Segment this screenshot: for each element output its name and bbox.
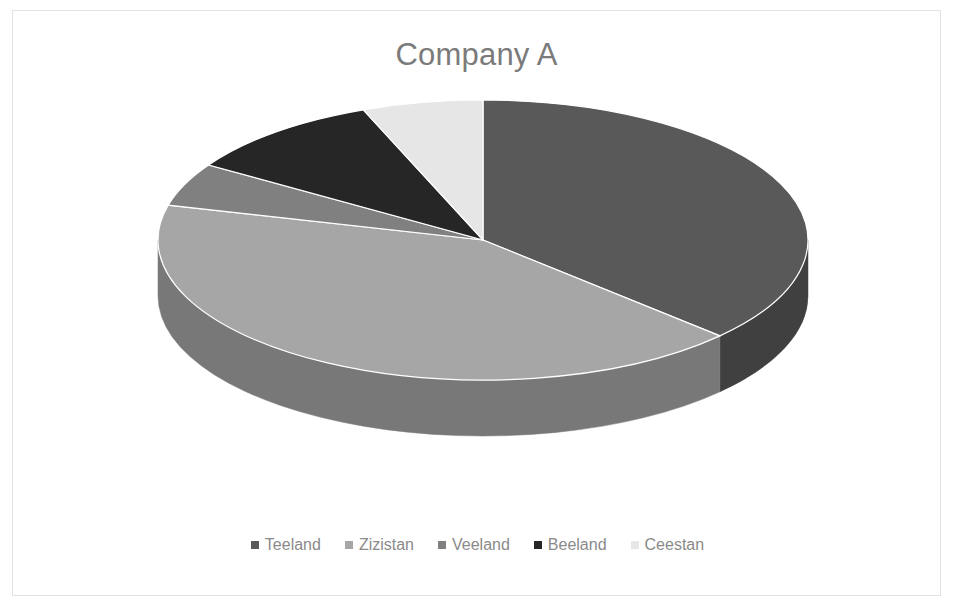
legend-item[interactable]: Teeland bbox=[251, 536, 321, 554]
legend-square-marker bbox=[345, 541, 353, 549]
legend-item-label: Zizistan bbox=[359, 536, 414, 554]
legend-item-label: Veeland bbox=[452, 536, 510, 554]
legend-item[interactable]: Veeland bbox=[438, 536, 510, 554]
legend-item-label: Ceestan bbox=[645, 536, 705, 554]
legend-item[interactable]: Beeland bbox=[534, 536, 607, 554]
legend-square-marker bbox=[534, 541, 542, 549]
legend-item[interactable]: Ceestan bbox=[631, 536, 705, 554]
legend-square-marker bbox=[251, 541, 259, 549]
legend-square-marker bbox=[631, 541, 639, 549]
chart-legend: TeelandZizistanVeelandBeelandCeestan bbox=[0, 536, 955, 554]
pie-chart-graphic bbox=[0, 0, 955, 610]
legend-item-label: Teeland bbox=[265, 536, 321, 554]
chart-screenshot: Company A TeelandZizistanVeelandBeelandC… bbox=[0, 0, 955, 610]
legend-item-label: Beeland bbox=[548, 536, 607, 554]
legend-item[interactable]: Zizistan bbox=[345, 536, 414, 554]
legend-square-marker bbox=[438, 541, 446, 549]
